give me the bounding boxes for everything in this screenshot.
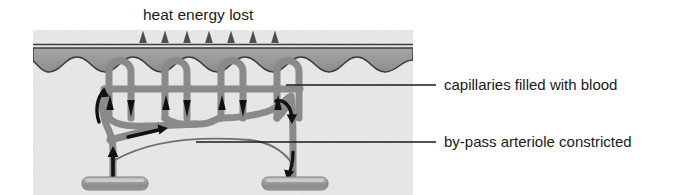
- diagram-title: heat energy lost: [143, 6, 254, 23]
- callout-label-bypass: by-pass arteriole constricted: [444, 133, 632, 150]
- diagram-canvas: heat energy lost capillaries filled with…: [0, 0, 687, 195]
- base-bar: [82, 177, 148, 190]
- base-bar-highlight: [266, 179, 324, 182]
- base-bar: [262, 177, 328, 190]
- callout-label-capillaries: capillaries filled with blood: [444, 76, 617, 93]
- arteriole-base-bar: [82, 177, 148, 190]
- base-bar-highlight: [86, 179, 144, 182]
- skin-capillary-heat-loss-diagram: heat energy lost capillaries filled with…: [0, 0, 687, 195]
- venule-base-bar: [262, 177, 328, 190]
